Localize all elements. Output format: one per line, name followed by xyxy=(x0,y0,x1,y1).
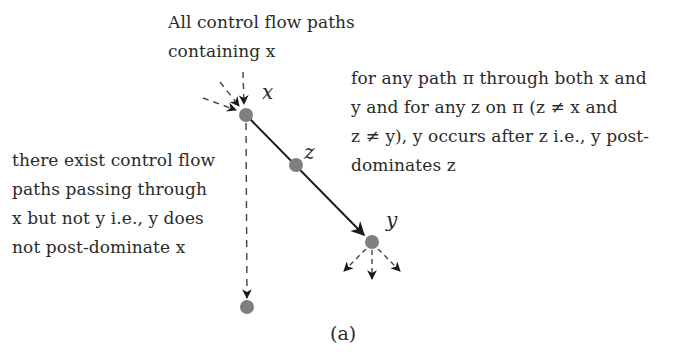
node-x xyxy=(239,108,253,122)
node-w xyxy=(240,300,254,314)
annotation-left-line: not post-dominate x xyxy=(12,233,215,262)
node-y-label: y xyxy=(386,208,397,232)
node-z-label: z xyxy=(304,140,315,164)
diagram-canvas: x z y All control flow paths containing … xyxy=(0,0,681,363)
outgoing-dashed-arrows xyxy=(344,249,400,279)
edge-x-to-w-dashed xyxy=(246,123,247,298)
annotation-right-line: y and for any z on π (z ≠ x and xyxy=(351,93,649,122)
incoming-dashed-arrows xyxy=(203,72,244,110)
edge-x-to-y xyxy=(250,119,364,235)
annotation-top-line: containing x xyxy=(168,37,355,66)
annotation-top-line: All control flow paths xyxy=(168,8,355,37)
annotation-top: All control flow paths containing x xyxy=(168,8,355,66)
annotation-right-line: dominates z xyxy=(351,151,649,180)
annotation-right-line: for any path π through both x and xyxy=(351,64,649,93)
annotation-right-line: z ≠ y), y occurs after z i.e., y post- xyxy=(351,122,649,151)
annotation-left-line: paths passing through xyxy=(12,175,215,204)
annotation-left-line: x but not y i.e., y does xyxy=(12,204,215,233)
node-y xyxy=(365,235,379,249)
annotation-left: there exist control flow paths passing t… xyxy=(12,146,215,262)
node-z xyxy=(289,158,303,172)
node-x-label: x xyxy=(262,80,273,104)
annotation-right: for any path π through both x and y and … xyxy=(351,64,649,180)
annotation-left-line: there exist control flow xyxy=(12,146,215,175)
figure-caption: (a) xyxy=(330,322,356,344)
